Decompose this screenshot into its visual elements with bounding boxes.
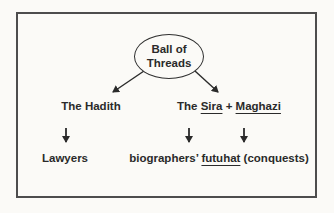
root-node-ball-of-threads: Ball of Threads (134, 34, 204, 79)
root-label-line2: Threads (147, 57, 192, 71)
diagram-canvas: Ball of Threads The Hadith The Sira + Ma… (0, 0, 334, 213)
root-label-line1: Ball of (151, 43, 186, 57)
connector-arrows (0, 0, 334, 213)
arrow-root-to-sira-icon (195, 71, 218, 92)
arrow-root-to-hadith-icon (113, 71, 144, 92)
